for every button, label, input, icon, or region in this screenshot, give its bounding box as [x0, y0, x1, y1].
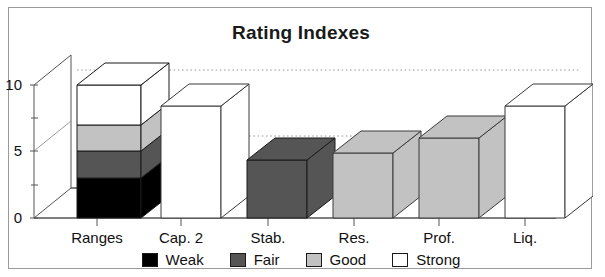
bar-res-front: [333, 153, 393, 218]
legend-label-good: Good: [330, 251, 367, 268]
bar-stab-front: [247, 160, 307, 218]
y-tick-label-0: 0: [0, 209, 22, 226]
bar-cap2-front: [161, 106, 221, 218]
legend-entry-strong: Strong: [392, 251, 460, 268]
y-axis-top-connector: [34, 55, 71, 85]
chart-legend: Weak Fair Good Strong: [9, 251, 593, 268]
bar-ranges-strong-front: [77, 85, 141, 125]
legend-label-strong: Strong: [416, 251, 460, 268]
category-label-cap2: Cap. 2: [138, 229, 224, 246]
y-axis-mid-connector: [34, 121, 71, 151]
legend-label-fair: Fair: [254, 251, 280, 268]
category-label-ranges: Ranges: [54, 229, 140, 246]
legend-swatch-good-icon: [306, 253, 322, 267]
legend-swatch-weak-icon: [142, 253, 158, 267]
legend-swatch-fair-icon: [230, 253, 246, 267]
category-label-stab: Stab.: [225, 229, 311, 246]
chart-frame: Rating Indexes: [8, 7, 592, 269]
y-tick-label-5: 5: [0, 142, 22, 159]
category-label-res: Res.: [311, 229, 397, 246]
legend-entry-weak: Weak: [142, 251, 204, 268]
chart-plot-area: 10 5 0 Ranges Cap. 2 Stab. Res. Prof. Li…: [9, 8, 593, 270]
bar-ranges-good-front: [77, 125, 141, 151]
bar-cap2-side: [221, 84, 249, 218]
category-label-liq: Liq.: [482, 229, 568, 246]
bar-ranges-weak-front: [77, 178, 141, 218]
bar-liq-front: [505, 106, 565, 218]
bar-liq-side: [565, 84, 593, 218]
category-label-prof: Prof.: [396, 229, 482, 246]
legend-swatch-strong-icon: [392, 253, 408, 267]
legend-entry-good: Good: [306, 251, 367, 268]
legend-label-weak: Weak: [166, 251, 204, 268]
bar-ranges-fair-front: [77, 151, 141, 178]
y-tick-label-10: 10: [0, 76, 22, 93]
bar-prof-front: [419, 138, 479, 218]
legend-entry-fair: Fair: [230, 251, 280, 268]
